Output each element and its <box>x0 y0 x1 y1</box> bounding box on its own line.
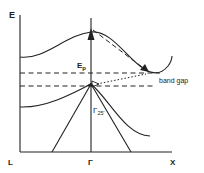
energy-axis-label: E <box>9 10 15 20</box>
transition-arrow-icon <box>140 64 149 72</box>
x-label-gamma: Γ <box>88 158 93 167</box>
indirect-transition-dashed-line <box>93 30 146 70</box>
gamma-25-label: Γ25' <box>93 106 105 116</box>
valence-top-blob <box>86 83 94 86</box>
valence-band-right-line <box>91 84 131 152</box>
band-gap-dotted-line <box>97 74 146 84</box>
conduction-band-curve <box>20 32 172 73</box>
band-structure-diagram: E L Γ X Ep band gap Γ25' <box>0 0 204 173</box>
ep-label: Ep <box>77 61 86 71</box>
x-label-X: X <box>170 158 176 167</box>
x-label-L: L <box>8 158 13 167</box>
band-gap-label: band gap <box>159 77 188 85</box>
